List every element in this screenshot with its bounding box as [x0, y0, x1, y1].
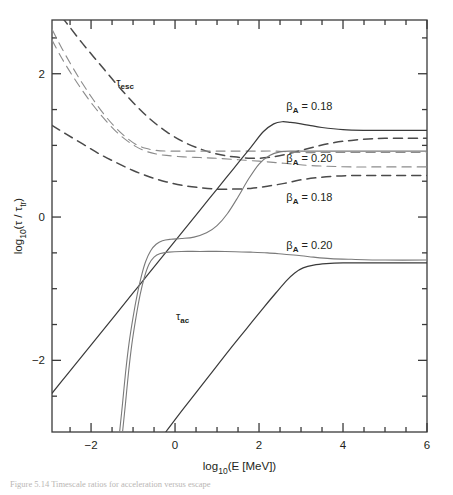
curve-tau_esc_mid_dashed_b	[52, 40, 427, 167]
curve-tau_ac_right_solid	[166, 263, 427, 432]
x-axis-tick-label: 0	[172, 439, 178, 451]
y-axis-title: log10(τ / τtr)	[12, 198, 28, 255]
tau-ac-label: τac	[176, 310, 190, 325]
beta-label-bottom: βA = 0.20	[286, 239, 332, 254]
curve-tau_ac_vertical_solid_upper	[120, 151, 427, 432]
plot-frame	[52, 20, 427, 432]
curves-group	[52, 6, 427, 432]
y-axis-tick-label: 0	[39, 211, 45, 223]
curve-tau_esc_outer_dashed	[52, 6, 427, 159]
figure-container: −20246−202τescτacβA = 0.18βA = 0.20βA = …	[0, 0, 453, 495]
figure-caption: Figure 5.14 Timescale ratios for acceler…	[10, 479, 443, 490]
x-axis-tick-label: 6	[424, 439, 430, 451]
y-axis-tick-label: −2	[32, 354, 45, 366]
beta-label-top: βA = 0.18	[286, 100, 332, 115]
curve-tau_ac_vertical_solid_lower	[123, 251, 427, 432]
tau-esc-label: τesc	[116, 76, 134, 91]
y-axis-tick-label: 2	[39, 68, 45, 80]
curve-tau_ac_steep_left_solid	[52, 122, 427, 394]
x-axis-tick-label: −2	[84, 439, 97, 451]
x-axis-tick-label: 4	[340, 439, 347, 451]
beta-label-second: βA = 0.20	[286, 152, 332, 167]
curve-tau_esc_mid_dashed_a	[52, 29, 427, 152]
x-axis-tick-label: 2	[256, 439, 262, 451]
plot-svg: −20246−202τescτacβA = 0.18βA = 0.20βA = …	[0, 0, 453, 495]
beta-label-third: βA = 0.18	[286, 191, 332, 206]
x-axis-title: log10(E [MeV])	[203, 460, 277, 476]
